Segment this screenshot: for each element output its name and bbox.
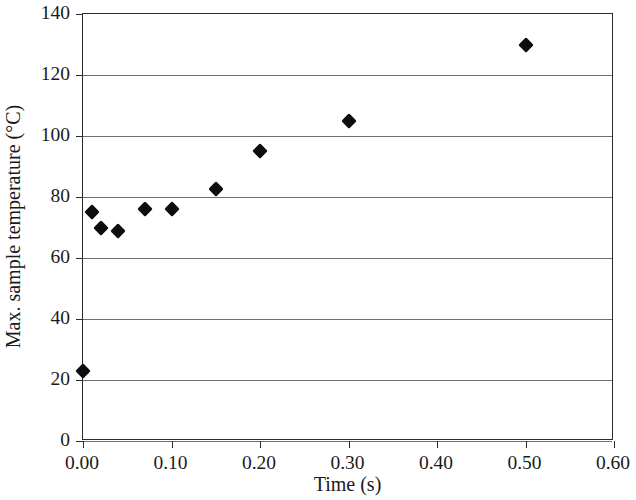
data-point-marker [111, 223, 127, 239]
chart-figure: Max. sample temperature (°C) 02040608010… [0, 0, 636, 500]
x-axis-tick [172, 441, 173, 448]
y-axis-tick-label: 0 [0, 430, 70, 450]
data-point-marker [252, 143, 268, 159]
x-axis-tick-label: 0.40 [396, 453, 476, 473]
x-axis-tick [260, 441, 261, 448]
y-axis-tick [76, 197, 83, 198]
data-point-marker [84, 204, 100, 220]
y-axis-tick [76, 441, 83, 442]
y-axis-tick [76, 136, 83, 137]
y-axis-tick-label: 140 [0, 3, 70, 23]
gridline-horizontal [83, 197, 612, 198]
x-axis-tick-label: 0.00 [42, 453, 122, 473]
x-axis-tick [526, 441, 527, 448]
y-axis-tick-label: 60 [0, 247, 70, 267]
gridline-horizontal [83, 380, 612, 381]
x-axis-title: Time (s) [82, 474, 613, 494]
x-axis-tick-label: 0.30 [308, 453, 388, 473]
x-axis-tick-label: 0.10 [131, 453, 211, 473]
gridline-horizontal [83, 441, 612, 442]
x-axis-tick-label: 0.50 [485, 453, 565, 473]
data-point-marker [341, 113, 357, 129]
data-point-marker [75, 363, 91, 379]
x-axis-tick [349, 441, 350, 448]
gridline-horizontal [83, 75, 612, 76]
y-axis-tick [76, 75, 83, 76]
x-axis-tick-label: 0.20 [219, 453, 299, 473]
y-axis-tick-label: 80 [0, 186, 70, 206]
data-point-marker [518, 37, 534, 53]
data-point-marker [137, 201, 153, 217]
x-axis-tick [83, 441, 84, 448]
gridline-horizontal [83, 258, 612, 259]
data-point-marker [164, 201, 180, 217]
data-point-marker [93, 220, 109, 236]
y-axis-tick-label: 120 [0, 64, 70, 84]
x-axis-tick-label: 0.60 [573, 453, 636, 473]
y-axis-tick [76, 380, 83, 381]
y-axis-tick [76, 319, 83, 320]
plot-area [82, 13, 613, 440]
gridline-horizontal [83, 136, 612, 137]
gridline-horizontal [83, 319, 612, 320]
y-axis-tick-label: 20 [0, 369, 70, 389]
y-axis-tick-label: 100 [0, 125, 70, 145]
y-axis-tick [76, 258, 83, 259]
x-axis-tick [437, 441, 438, 448]
y-axis-tick-label: 40 [0, 308, 70, 328]
x-axis-tick [614, 441, 615, 448]
data-point-marker [208, 182, 224, 198]
y-axis-tick [76, 14, 83, 15]
